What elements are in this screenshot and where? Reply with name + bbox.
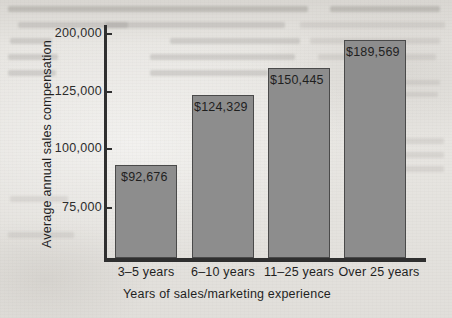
- y-tick-label-125000: 125,000: [46, 84, 102, 98]
- y-tick-label-75000: 75,000: [46, 200, 102, 214]
- y-axis-spine: [104, 25, 107, 260]
- x-tick-label-3-5-years: 3–5 years: [108, 265, 184, 279]
- scanned-page: Average annual sales compensation 200,00…: [0, 0, 452, 318]
- y-tick-label-200000: 200,000: [46, 26, 102, 40]
- y-tick-label-100000: 100,000: [46, 141, 102, 155]
- x-tick-label-11-25-years: 11–25 years: [259, 265, 339, 279]
- x-tick-label-over-25-years: Over 25 years: [335, 265, 423, 279]
- bar-chart: Average annual sales compensation 200,00…: [0, 0, 452, 318]
- bar-value-label-11-25-years: $150,445: [270, 73, 324, 87]
- x-axis-spine: [104, 258, 426, 262]
- bar-over-25-years: [344, 40, 406, 258]
- bar-value-label-6-10-years: $124,329: [194, 100, 248, 114]
- bar-value-label-over-25-years: $189,569: [346, 45, 400, 59]
- bar-6-10-years: [192, 95, 254, 258]
- x-axis-title: Years of sales/marketing experience: [32, 287, 422, 301]
- bar-value-label-3-5-years: $92,676: [121, 170, 168, 184]
- x-tick-label-6-10-years: 6–10 years: [185, 265, 261, 279]
- bar-11-25-years: [268, 68, 330, 258]
